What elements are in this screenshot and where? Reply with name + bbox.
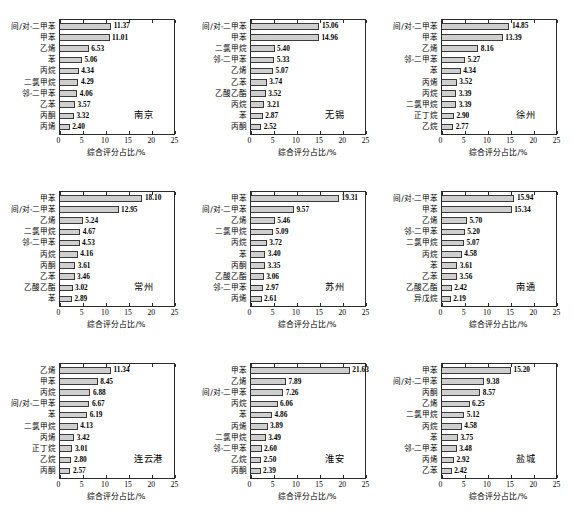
- category-label: 丙烯: [0, 123, 59, 131]
- bar: [250, 434, 266, 441]
- bar-track: 6.67: [59, 399, 179, 410]
- bar-value-label: 5.46: [277, 217, 290, 225]
- bar-row: 甲苯15.34: [382, 204, 573, 215]
- bar-row: 丙烯2.40: [0, 122, 191, 133]
- bar: [441, 389, 481, 396]
- x-tick-label: 5: [271, 137, 275, 145]
- x-tick-label: 25: [171, 137, 179, 145]
- x-axis-title: 综合评分占比/%: [441, 492, 557, 501]
- bar-track: 4.34: [59, 66, 179, 77]
- x-tick-label: 20: [530, 309, 538, 317]
- bar: [441, 434, 458, 441]
- bar-track: 2.87: [250, 111, 370, 122]
- bar-value-label: 9.38: [487, 378, 500, 386]
- bar-value-label: 3.39: [459, 101, 472, 109]
- bar-track: 5.24: [59, 215, 179, 226]
- bar-track: 21.63: [250, 365, 370, 376]
- bar-track: 6.06: [250, 399, 370, 410]
- bar: [441, 445, 457, 452]
- bar-track: 6.19: [59, 410, 179, 421]
- plot-area: 乙烯11.34甲苯8.45丙烷6.88间/对-二甲苯6.67苯6.19二氯甲烷4…: [0, 344, 191, 515]
- bar-track: 3.52: [441, 77, 561, 88]
- bar-track: 15.20: [441, 365, 561, 376]
- x-tick-label: 0: [248, 137, 252, 145]
- bar: [59, 412, 88, 419]
- x-tick-label: 25: [553, 309, 561, 317]
- bar: [59, 285, 73, 292]
- bar-value-label: 14.96: [321, 34, 337, 42]
- bar-track: 5.46: [250, 215, 370, 226]
- category-label: 乙烯: [191, 217, 250, 225]
- bar-value-label: 2.42: [454, 467, 467, 475]
- bar: [250, 401, 278, 408]
- bar-rows: 甲苯15.20间/对-二甲苯9.38丙酮8.57乙烯6.25二氯甲烷5.12丙烷…: [382, 365, 573, 477]
- category-label: 二氯甲烷: [382, 239, 441, 247]
- bar: [441, 240, 465, 247]
- x-tick-label: 0: [248, 309, 252, 317]
- bar-value-label: 3.61: [78, 262, 91, 270]
- category-label: 丙酮: [0, 112, 59, 120]
- chart-panel-2: 间/对-二甲苯15.06甲苯14.96二氯甲烷5.40邻-二甲苯5.33乙烯5.…: [191, 0, 382, 172]
- bar-track: 4.58: [441, 421, 561, 432]
- bar-track: 3.46: [59, 271, 179, 282]
- bar-track: 3.35: [250, 260, 370, 271]
- bar-track: 14.96: [250, 32, 370, 43]
- bar-value-label: 15.06: [322, 22, 338, 30]
- bar-row: 二氯甲烷4.29: [0, 77, 191, 88]
- bar-rows: 间/对-二甲苯14.85甲苯13.39乙烯8.16邻-二甲苯5.27苯4.34丙…: [382, 21, 573, 133]
- bar: [59, 124, 70, 131]
- bar-value-label: 5.70: [469, 217, 482, 225]
- bar-value-label: 3.40: [268, 250, 281, 258]
- bar-value-label: 4.34: [463, 67, 476, 75]
- category-label: 乙烷: [191, 456, 250, 464]
- category-label: 丙酮: [191, 262, 250, 270]
- bar-track: 3.61: [59, 260, 179, 271]
- bar-track: 6.53: [59, 43, 179, 54]
- chart-panel-4: 甲苯18.10间/对-二甲苯12.95乙烯5.24二氯甲烷4.67邻-二甲苯4.…: [0, 172, 191, 344]
- bar-value-label: 15.20: [514, 366, 530, 374]
- category-label: 苯: [191, 112, 250, 120]
- category-label: 丙烷: [382, 251, 441, 259]
- bar-value-label: 2.52: [264, 123, 277, 131]
- category-label: 异戊烷: [382, 295, 441, 303]
- bar-track: 2.40: [59, 122, 179, 133]
- bar-row: 二氯甲烷3.39: [382, 99, 573, 110]
- x-tick-label: 15: [506, 137, 514, 145]
- bar-rows: 甲苯18.10间/对-二甲苯12.95乙烯5.24二氯甲烷4.67邻-二甲苯4.…: [0, 193, 191, 305]
- bar: [250, 468, 261, 475]
- bar: [441, 401, 470, 408]
- category-label: 乙苯: [0, 273, 59, 281]
- bar-row: 甲苯21.63: [191, 365, 382, 376]
- bar-row: 甲苯15.20: [382, 365, 573, 376]
- category-label: 丙烷: [191, 101, 250, 109]
- bar-rows: 甲苯19.31间/对-二甲苯9.57乙烯5.46二氯甲烷5.09丙烷3.72苯3…: [191, 193, 382, 305]
- bar-value-label: 2.89: [74, 295, 87, 303]
- bar-track: 2.42: [441, 466, 561, 477]
- bar-track: 11.34: [59, 365, 179, 376]
- bar-row: 丙酮2.39: [191, 466, 382, 477]
- bar-value-label: 2.60: [264, 445, 277, 453]
- city-annotation: 无锡: [325, 110, 344, 120]
- plot-area: 间/对-二甲苯15.94甲苯15.34乙烯5.70邻-二甲苯5.20二氯甲烷5.…: [382, 172, 573, 344]
- bar-value-label: 14.85: [512, 22, 528, 30]
- category-label: 苯: [0, 411, 59, 419]
- bar: [250, 412, 273, 419]
- bar-row: 甲苯13.39: [382, 32, 573, 43]
- bar-value-label: 3.52: [459, 78, 472, 86]
- bar-row: 丙酮2.52: [191, 122, 382, 133]
- bar: [250, 34, 319, 41]
- bar: [441, 468, 452, 475]
- bar-value-label: 15.94: [517, 194, 533, 202]
- x-axis-title: 综合评分占比/%: [250, 492, 366, 501]
- bar-rows: 甲苯21.63乙烯7.89间/对-二甲苯7.26丙烷6.06苯4.86丙烯3.8…: [191, 365, 382, 477]
- bar-row: 乙烷2.50: [191, 455, 382, 466]
- x-tick-label: 5: [271, 309, 275, 317]
- bar-row: 丙酮3.32: [0, 111, 191, 122]
- bar-value-label: 3.35: [268, 262, 281, 270]
- bar-row: 苯3.61: [382, 260, 573, 271]
- bar-row: 丙烷4.16: [0, 249, 191, 260]
- bar-row: 丙烷6.06: [191, 399, 382, 410]
- bar-value-label: 19.31: [342, 194, 358, 202]
- bar: [59, 217, 83, 224]
- category-label: 丙烷: [191, 400, 250, 408]
